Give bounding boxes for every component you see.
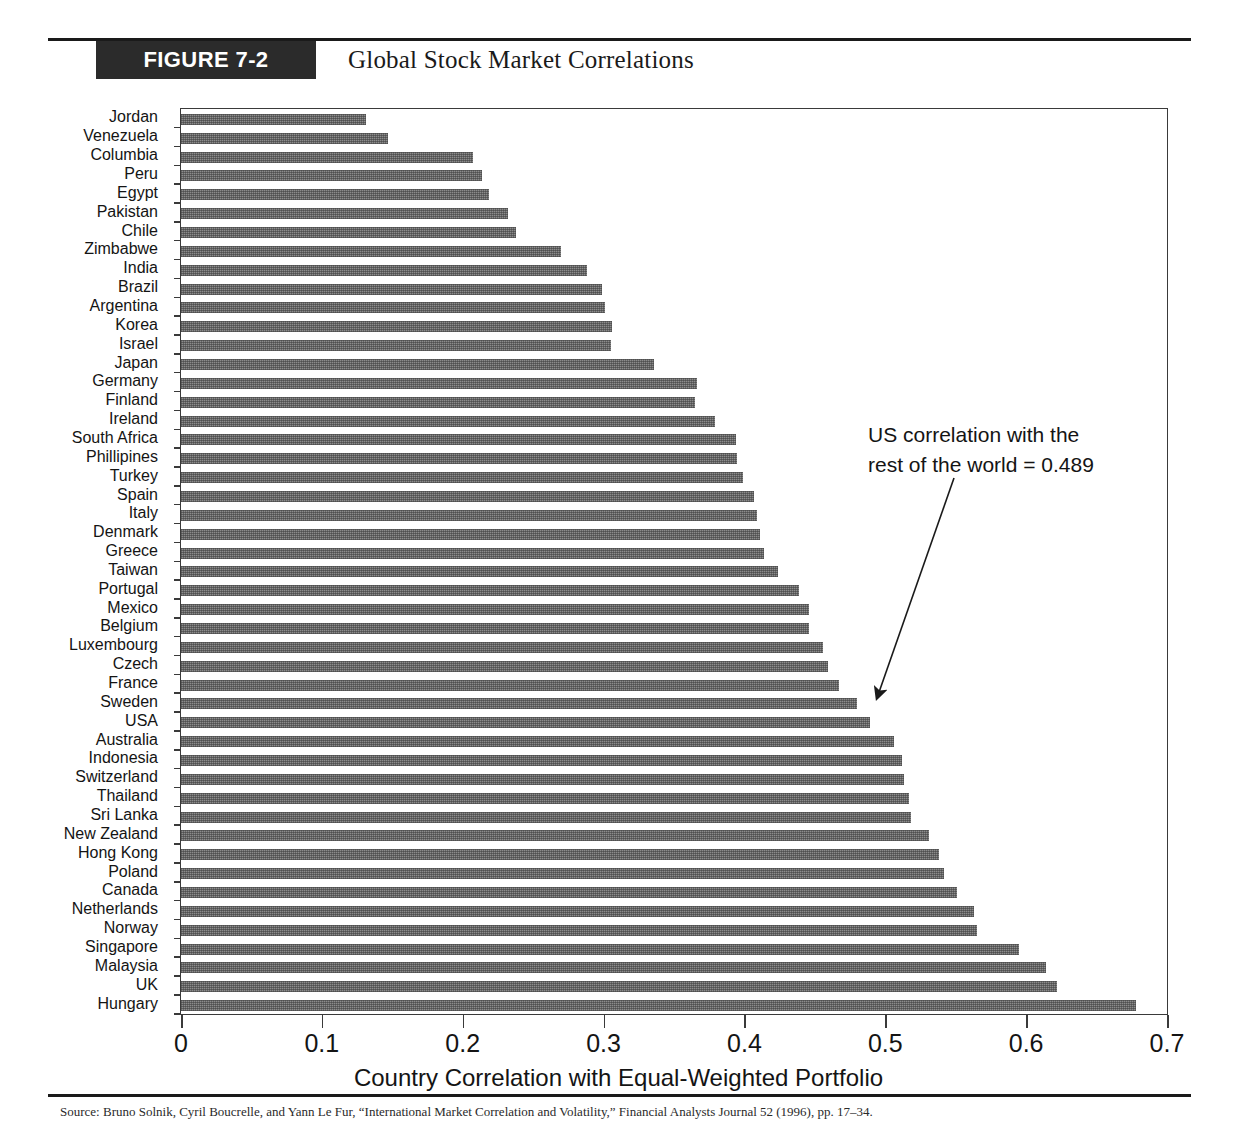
bar — [181, 755, 902, 766]
bar — [181, 359, 654, 370]
bar — [181, 585, 799, 596]
bar — [181, 944, 1019, 955]
bar — [181, 680, 839, 691]
x-axis-tick-label: 0.1 — [292, 1029, 352, 1058]
bar-series — [181, 109, 1167, 1014]
x-axis-tick — [604, 1015, 606, 1028]
bar — [181, 868, 944, 879]
bar — [181, 566, 778, 577]
bar — [181, 434, 736, 445]
bar — [181, 208, 508, 219]
us-correlation-annotation: US correlation with the rest of the worl… — [868, 420, 1168, 480]
bar — [181, 152, 473, 163]
x-axis-tick-label: 0.2 — [433, 1029, 493, 1058]
bar — [181, 114, 366, 125]
y-axis-ticks — [0, 108, 200, 1028]
x-axis-tick-label: 0.4 — [714, 1029, 774, 1058]
bar — [181, 453, 737, 464]
x-axis-tick-label: 0.6 — [996, 1029, 1056, 1058]
bar — [181, 774, 904, 785]
x-axis-tick-label: 0.7 — [1137, 1029, 1197, 1058]
bar — [181, 887, 957, 898]
bar — [181, 962, 1046, 973]
bar — [181, 1000, 1136, 1011]
bar — [181, 340, 611, 351]
x-axis-tick — [744, 1015, 746, 1028]
source-note: Source: Bruno Solnik, Cyril Boucrelle, a… — [60, 1104, 1190, 1126]
bar — [181, 189, 489, 200]
bar — [181, 925, 977, 936]
bar — [181, 227, 516, 238]
x-axis-tick-label: 0 — [151, 1029, 211, 1058]
annotation-line-2: rest of the world = 0.489 — [868, 450, 1168, 480]
x-axis-tick-label: 0.5 — [855, 1029, 915, 1058]
annotation-line-1: US correlation with the — [868, 420, 1168, 450]
bar — [181, 265, 587, 276]
x-axis-tick — [463, 1015, 465, 1028]
bar — [181, 793, 909, 804]
bar — [181, 736, 894, 747]
bar — [181, 416, 715, 427]
bar — [181, 491, 754, 502]
bar — [181, 812, 911, 823]
bar — [181, 698, 857, 709]
x-axis-tick — [1167, 1015, 1169, 1028]
bar — [181, 246, 561, 257]
bar — [181, 397, 695, 408]
bar — [181, 906, 974, 917]
bar — [181, 604, 809, 615]
bar — [181, 133, 388, 144]
bar — [181, 849, 939, 860]
bar — [181, 510, 757, 521]
bar — [181, 284, 602, 295]
bar — [181, 302, 605, 313]
footer-rule — [48, 1094, 1191, 1097]
bar — [181, 170, 482, 181]
bar — [181, 529, 760, 540]
bar — [181, 642, 823, 653]
x-axis-tick — [885, 1015, 887, 1028]
bar — [181, 717, 870, 728]
bar — [181, 830, 929, 841]
bar — [181, 548, 764, 559]
x-axis-title: Country Correlation with Equal-Weighted … — [0, 1064, 1237, 1092]
bar — [181, 472, 743, 483]
bar — [181, 981, 1057, 992]
bar-chart: JordanVenezuelaColumbiaPeruEgyptPakistan… — [0, 0, 1237, 1129]
bar — [181, 378, 697, 389]
x-axis-tick — [322, 1015, 324, 1028]
x-axis-ticks — [0, 1015, 1237, 1029]
x-axis-tick-labels: 00.10.20.30.40.50.60.7 — [0, 1029, 1237, 1061]
x-axis-tick — [1026, 1015, 1028, 1028]
bar — [181, 623, 809, 634]
x-axis-tick-label: 0.3 — [574, 1029, 634, 1058]
x-axis-tick — [181, 1015, 183, 1028]
bar — [181, 321, 612, 332]
bar — [181, 661, 828, 672]
